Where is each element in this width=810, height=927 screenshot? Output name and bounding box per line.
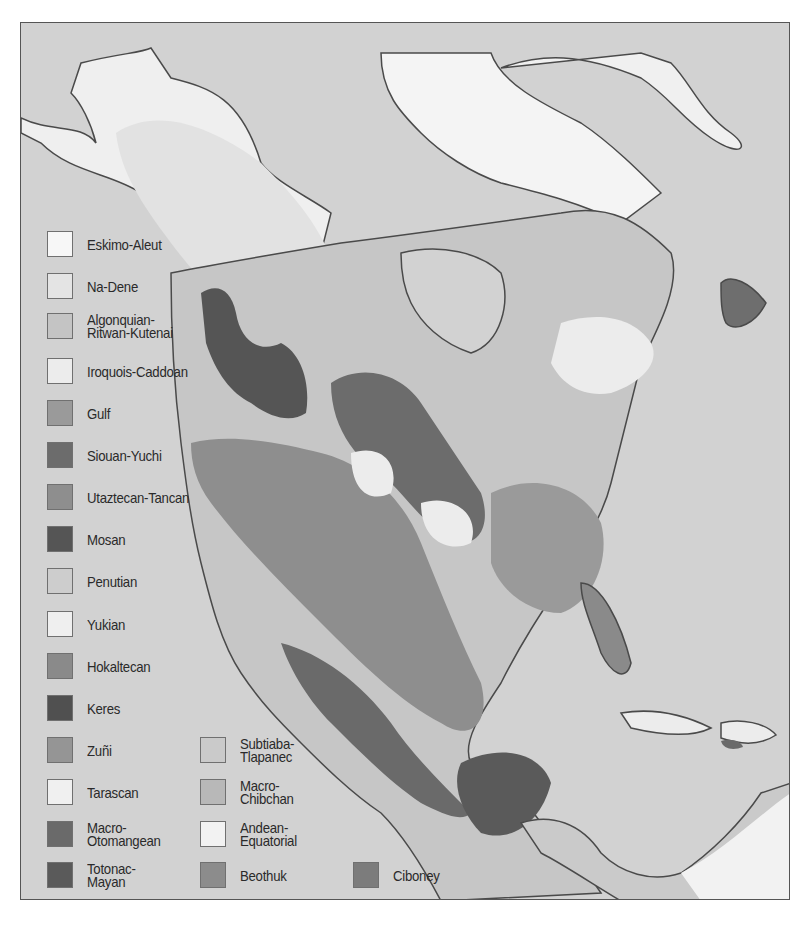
legend-swatch	[47, 400, 73, 426]
cuba	[621, 711, 711, 734]
legend-item-keres: Keres	[47, 695, 125, 721]
legend-swatch	[47, 313, 73, 339]
legend-label: Totonac- Mayan	[87, 862, 136, 888]
legend-item-gulf: Gulf	[47, 400, 113, 426]
florida	[581, 583, 631, 674]
legend-item-iroquois-caddoan: Iroquois-Caddoan	[47, 358, 201, 384]
legend-item-penutian: Penutian	[47, 568, 144, 594]
newfoundland	[721, 279, 766, 327]
legend-label: Algonquian- Ritwan-Kutenai	[87, 313, 173, 339]
legend-item-algonquian: Algonquian- Ritwan-Kutenai	[47, 313, 185, 339]
legend-item-hokaltecan: Hokaltecan	[47, 653, 159, 679]
legend-swatch	[47, 779, 73, 805]
legend-item-zuni: Zuñi	[47, 737, 115, 763]
legend-swatch	[353, 862, 379, 888]
legend-label: Mosan	[87, 533, 125, 546]
legend-label: Penutian	[87, 575, 137, 588]
legend-label: Yukian	[87, 618, 125, 631]
legend-item-totonac-mayan: Totonac- Mayan	[47, 862, 142, 888]
legend-label: Eskimo-Aleut	[87, 238, 162, 251]
legend-swatch	[47, 611, 73, 637]
legend-label: Subtiaba- Tlapanec	[240, 737, 294, 763]
legend-swatch	[200, 821, 226, 847]
legend-swatch	[47, 484, 73, 510]
map-frame: Eskimo-Aleut Na-Dene Algonquian- Ritwan-…	[20, 22, 790, 900]
legend-swatch	[200, 862, 226, 888]
legend-swatch	[47, 862, 73, 888]
legend-swatch	[47, 358, 73, 384]
legend-label: Gulf	[87, 407, 110, 420]
legend-label: Zuñi	[87, 744, 112, 757]
legend-item-yukian: Yukian	[47, 611, 130, 637]
legend-swatch	[200, 737, 226, 763]
legend-swatch	[47, 695, 73, 721]
legend-label: Iroquois-Caddoan	[87, 365, 188, 378]
legend-label: Na-Dene	[87, 280, 138, 293]
legend-item-macro-chibchan: Macro- Chibchan	[200, 779, 301, 805]
legend-swatch	[47, 273, 73, 299]
legend-item-siouan-yuchi: Siouan-Yuchi	[47, 442, 172, 468]
legend-label: Ciboney	[393, 869, 440, 882]
legend-item-subtiaba-tlapanec: Subtiaba- Tlapanec	[200, 737, 302, 763]
legend-label: Beothuk	[240, 869, 287, 882]
legend-swatch	[47, 653, 73, 679]
hispaniola	[721, 721, 776, 743]
legend-item-na-dene: Na-Dene	[47, 273, 145, 299]
south-america	[681, 793, 790, 900]
legend-item-beothuk: Beothuk	[200, 862, 293, 888]
legend-swatch	[47, 737, 73, 763]
legend-label: Utaztecan-Tancan	[87, 491, 189, 504]
legend-item-andean-equatorial: Andean- Equatorial	[200, 821, 305, 847]
legend-label: Keres	[87, 702, 120, 715]
legend-label: Macro- Chibchan	[240, 779, 294, 805]
legend-item-utaztecan-tancan: Utaztecan-Tancan	[47, 484, 203, 510]
legend-item-tarascan: Tarascan	[47, 779, 145, 805]
legend-swatch	[200, 779, 226, 805]
legend-item-ciboney: Ciboney	[353, 862, 446, 888]
legend-swatch	[47, 821, 73, 847]
arctic-islands	[381, 53, 661, 223]
legend-item-mosan: Mosan	[47, 526, 131, 552]
legend-label: Tarascan	[87, 786, 138, 799]
legend-swatch	[47, 442, 73, 468]
legend-swatch	[47, 526, 73, 552]
legend-swatch	[47, 231, 73, 257]
legend-item-eskimo-aleut: Eskimo-Aleut	[47, 231, 172, 257]
legend-label: Siouan-Yuchi	[87, 449, 162, 462]
legend-label: Hokaltecan	[87, 660, 150, 673]
legend-label: Macro- Otomangean	[87, 821, 161, 847]
legend-swatch	[47, 568, 73, 594]
legend-item-macro-otomangean: Macro- Otomangean	[47, 821, 171, 847]
legend-label: Andean- Equatorial	[240, 821, 297, 847]
